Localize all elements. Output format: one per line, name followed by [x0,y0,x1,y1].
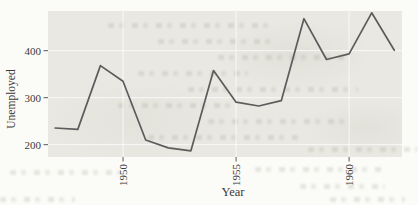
unemployed-series-line [55,13,394,151]
y-tick-label: 300 [25,92,42,103]
y-axis-title: Unemployed [6,69,18,128]
x-tick-label: 1955 [231,164,242,186]
y-tick-label: 400 [25,45,42,56]
y-tick-label: 200 [25,139,42,150]
x-tick-label: 1950 [118,164,129,186]
x-axis-title: Year [221,186,244,199]
x-tick-label: 1960 [344,164,355,186]
